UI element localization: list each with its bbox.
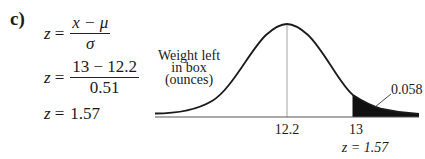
normal-curve-diagram: Weight left in box (ounces) 0.058 12.2 1… [0,0,425,159]
tail-area-label: 0.058 [391,82,423,97]
z-score-label: z = 1.57 [341,140,389,155]
curve-label-line3: (ounces) [165,72,214,88]
cutoff-tick-label: 13 [349,122,363,137]
mean-tick-label: 12.2 [275,122,300,137]
area-leader-line [375,94,391,107]
